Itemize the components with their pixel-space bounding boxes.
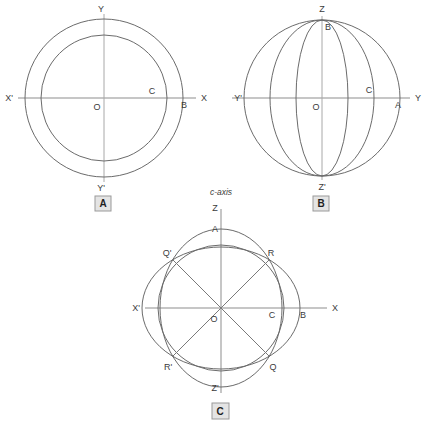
panel-c-label-q: Q [269,362,276,372]
panel-c-label-right: X [332,303,338,313]
panel-b-label-inner-vertical: B [325,22,331,32]
panel-c-label-c-point: C [269,310,276,320]
panel-c-axis-caption: c-axis [210,187,233,197]
panel-a-group: Y Y' X' X O C B A [5,4,207,211]
panel-c-label-bottom: Z' [211,383,218,393]
panel-c-group: c-axis Z A Z' X' X O C B R Q' Q R' C [132,187,338,419]
panel-b-group: Z B Z' Y' Y O C A B [232,4,421,211]
panel-b-label-left: Y' [234,93,242,103]
panel-a-label-center: O [93,102,100,112]
panel-c-label-left: X' [132,303,140,313]
panel-b-label-right: Y [415,93,421,103]
panel-c-label-r: R [268,248,275,258]
panel-b-label-center: O [312,102,319,112]
panel-a-label-right: X [201,93,207,103]
panel-c-badge-letter: C [216,406,223,417]
panel-b-label-bottom: Z' [318,182,325,192]
panel-b-label-a: A [395,100,401,110]
panel-c-label-r-prime: R' [164,362,172,372]
panel-a-label-b: B [181,100,187,110]
panel-c-label-center: O [210,314,217,324]
panel-a-label-bottom: Y' [97,183,105,193]
panel-a-label-top: Y [98,4,104,14]
panel-b-label-top: Z [319,4,325,14]
panel-b-badge-letter: B [317,198,324,209]
panel-c-label-q-prime: Q' [163,248,172,258]
panel-a-label-c: C [149,86,156,96]
panel-a-label-left: X' [5,93,13,103]
panel-c-label-a: A [212,224,218,234]
panel-c-label-b-point: B [300,310,306,320]
crystallography-indicatrix-figure: Y Y' X' X O C B A Z B Z' Y' Y O C A B [0,0,437,432]
panel-b-label-c: C [366,85,373,95]
panel-a-badge-letter: A [99,198,106,209]
panel-c-label-top: Z [212,203,218,213]
